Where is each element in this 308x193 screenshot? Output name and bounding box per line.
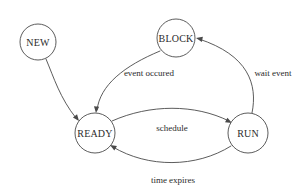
state-label-block: BLOCK	[159, 33, 194, 44]
state-node-ready[interactable]: READY	[75, 113, 115, 153]
state-label-run: RUN	[237, 128, 259, 139]
state-label-new: NEW	[26, 37, 50, 48]
arrow-head-block-to-ready	[93, 106, 99, 113]
edge-label-event-occured: event occured	[124, 68, 175, 78]
edge-path-block-to-ready	[97, 51, 160, 110]
transition-ready-to-run: schedule	[112, 108, 233, 133]
transitions-layer: event occured wait event schedule time e…	[46, 35, 292, 185]
edge-path-run-to-ready	[113, 146, 231, 163]
transition-new-to-ready	[46, 59, 81, 123]
edge-label-wait-event: wait event	[254, 68, 292, 78]
edge-path-run-to-block	[199, 39, 254, 113]
edge-label-schedule: schedule	[156, 123, 188, 133]
transition-run-to-block: wait event	[195, 35, 292, 113]
state-label-ready: READY	[77, 128, 112, 139]
state-node-run[interactable]: RUN	[228, 113, 268, 153]
state-node-block[interactable]: BLOCK	[157, 19, 195, 57]
state-diagram: event occured wait event schedule time e…	[0, 0, 308, 193]
edge-path-new-to-ready	[46, 59, 76, 118]
transition-block-to-ready: event occured	[93, 51, 174, 113]
transition-run-to-ready: time expires	[109, 143, 231, 185]
state-diagram-canvas: event occured wait event schedule time e…	[0, 0, 308, 193]
state-node-new[interactable]: NEW	[20, 24, 56, 60]
edge-path-ready-to-run	[112, 108, 229, 121]
arrow-head-run-to-block	[195, 35, 202, 41]
edge-label-time-expires: time expires	[151, 175, 196, 185]
